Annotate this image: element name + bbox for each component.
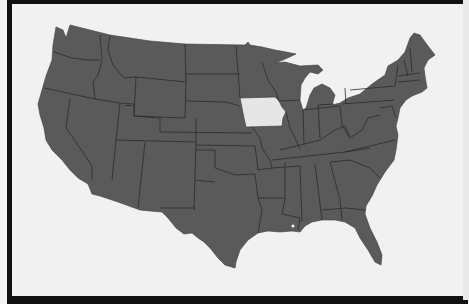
us-landmass [38,25,435,268]
lake-pontchartrain [291,224,294,227]
iowa-state[interactable] [240,97,286,127]
great-salt-lake [125,105,131,106]
